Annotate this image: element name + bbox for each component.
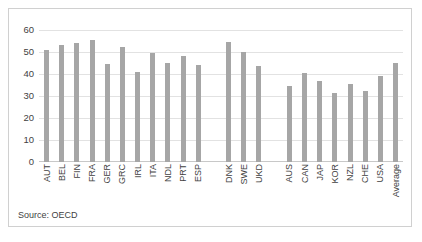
x-axis-tick: ESP <box>191 164 206 210</box>
x-axis-tick: PRT <box>176 164 191 210</box>
bar-slot[interactable] <box>358 30 373 162</box>
bar[interactable] <box>393 63 398 162</box>
bar-slot[interactable] <box>145 30 160 162</box>
bar-slot[interactable] <box>130 30 145 162</box>
x-label-gap <box>267 164 282 210</box>
bar-slot[interactable] <box>251 30 266 162</box>
bar[interactable] <box>181 56 186 162</box>
x-axis-tick: BEL <box>54 164 69 210</box>
y-axis-tick-label: 40 <box>23 69 34 79</box>
x-axis-tick: AUT <box>39 164 54 210</box>
bars-layer <box>39 30 403 162</box>
y-axis-tick-label: 0 <box>29 157 34 167</box>
bar-slot[interactable] <box>282 30 297 162</box>
y-axis-tick-label: 30 <box>23 91 34 101</box>
plot-wrapper: 0102030405060 AUTBELFINFRAGERGRCIRLITAND… <box>9 9 411 226</box>
x-axis-tick: DNK <box>221 164 236 210</box>
bar-slot[interactable] <box>176 30 191 162</box>
x-axis-tick-label: FRA <box>88 164 97 182</box>
chart-container: 0102030405060 AUTBELFINFRAGERGRCIRLITAND… <box>8 8 412 227</box>
bar-gap <box>267 30 282 162</box>
source-note: Source: OECD <box>18 211 78 220</box>
bar-gap <box>206 30 221 162</box>
x-axis: AUTBELFINFRAGERGRCIRLITANDLPRTESPDNKSWEU… <box>39 164 403 210</box>
bar-slot[interactable] <box>160 30 175 162</box>
bar-slot[interactable] <box>342 30 357 162</box>
bar-slot[interactable] <box>115 30 130 162</box>
x-axis-tick-label: KOR <box>330 164 339 184</box>
bar-slot[interactable] <box>327 30 342 162</box>
x-axis-tick: GER <box>100 164 115 210</box>
x-axis-tick-label: FIN <box>72 164 81 179</box>
x-axis-tick: FRA <box>85 164 100 210</box>
x-axis-tick-label: CHE <box>361 164 370 183</box>
bar[interactable] <box>44 50 49 162</box>
x-axis-tick: SWE <box>236 164 251 210</box>
bar[interactable] <box>332 93 337 162</box>
bar-slot[interactable] <box>312 30 327 162</box>
bar[interactable] <box>363 91 368 163</box>
x-axis-tick-label: AUT <box>42 164 51 182</box>
x-axis-tick: NZL <box>342 164 357 210</box>
x-axis-tick: JAP <box>312 164 327 210</box>
x-axis-tick: Average <box>388 164 403 210</box>
x-axis-tick-label: GRC <box>118 164 127 184</box>
x-axis-tick-label: JAP <box>315 164 324 181</box>
x-axis-tick: CHE <box>358 164 373 210</box>
x-axis-tick-label: IRL <box>133 164 142 178</box>
bar-slot[interactable] <box>85 30 100 162</box>
bar[interactable] <box>105 64 110 162</box>
bar[interactable] <box>241 52 246 162</box>
bar-slot[interactable] <box>39 30 54 162</box>
plot-area <box>39 30 403 162</box>
bar[interactable] <box>317 81 322 162</box>
x-axis-tick-label: AUS <box>285 164 294 183</box>
bar-slot[interactable] <box>373 30 388 162</box>
bar-slot[interactable] <box>100 30 115 162</box>
x-axis-tick: UKD <box>251 164 266 210</box>
bar[interactable] <box>150 53 155 162</box>
bar-slot[interactable] <box>221 30 236 162</box>
bar[interactable] <box>226 42 231 162</box>
x-axis-tick-label: PRT <box>179 164 188 182</box>
x-axis-tick: GRC <box>115 164 130 210</box>
y-axis-tick-label: 20 <box>23 113 34 123</box>
x-axis-tick-label: NDL <box>163 164 172 182</box>
y-axis-tick-label: 10 <box>23 135 34 145</box>
x-axis-tick: CAN <box>297 164 312 210</box>
bar[interactable] <box>165 63 170 162</box>
x-axis-tick-label: GER <box>103 164 112 184</box>
x-axis-tick-label: NZL <box>346 164 355 181</box>
bar[interactable] <box>74 43 79 162</box>
bar[interactable] <box>120 47 125 163</box>
x-axis-tick-label: UKD <box>254 164 263 183</box>
x-axis-tick: NDL <box>160 164 175 210</box>
bar-slot[interactable] <box>388 30 403 162</box>
x-axis-tick-label: DNK <box>224 164 233 183</box>
bar[interactable] <box>302 73 307 162</box>
x-axis-tick: FIN <box>69 164 84 210</box>
bar[interactable] <box>135 72 140 162</box>
bar-slot[interactable] <box>297 30 312 162</box>
x-axis-tick: IRL <box>130 164 145 210</box>
bar[interactable] <box>59 45 64 162</box>
x-axis-tick-label: Average <box>391 164 400 197</box>
bar[interactable] <box>378 76 383 162</box>
bar-slot[interactable] <box>54 30 69 162</box>
x-axis-tick-label: BEL <box>57 164 66 181</box>
bar-slot[interactable] <box>236 30 251 162</box>
y-axis-tick-label: 50 <box>23 47 34 57</box>
bar[interactable] <box>348 84 353 162</box>
x-axis-tick: ITA <box>145 164 160 210</box>
bar-slot[interactable] <box>191 30 206 162</box>
x-label-gap <box>206 164 221 210</box>
x-axis-tick-label: USA <box>376 164 385 183</box>
bar-slot[interactable] <box>69 30 84 162</box>
x-axis-tick-label: SWE <box>239 164 248 185</box>
bar[interactable] <box>256 66 261 162</box>
x-axis-tick-label: ESP <box>194 164 203 182</box>
bar[interactable] <box>287 86 292 162</box>
bar[interactable] <box>90 40 95 162</box>
bar[interactable] <box>196 65 201 162</box>
y-axis: 0102030405060 <box>9 30 37 162</box>
